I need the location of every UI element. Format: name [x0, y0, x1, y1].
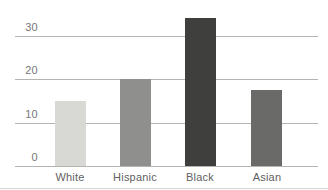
- gridline-0: [15, 166, 318, 167]
- gridline-30: [15, 36, 318, 37]
- y-tick-label-20: 20: [14, 63, 38, 77]
- figure-bottom-rule: [0, 188, 328, 189]
- bar-white: [55, 101, 86, 166]
- x-label-asian: Asian: [235, 170, 299, 184]
- bar-chart-figure: 0102030WhiteHispanicBlackAsian: [0, 0, 328, 190]
- bar-asian: [251, 90, 282, 166]
- bar-black: [185, 18, 216, 166]
- plot-area: 0102030WhiteHispanicBlackAsian: [0, 0, 328, 190]
- y-tick-label-10: 10: [14, 107, 38, 121]
- x-label-black: Black: [168, 170, 232, 184]
- y-tick-label-0: 0: [14, 150, 38, 164]
- x-label-hispanic: Hispanic: [103, 170, 167, 184]
- gridline-20: [15, 79, 318, 80]
- y-tick-label-30: 30: [14, 20, 38, 34]
- bar-hispanic: [120, 79, 151, 166]
- x-label-white: White: [38, 170, 102, 184]
